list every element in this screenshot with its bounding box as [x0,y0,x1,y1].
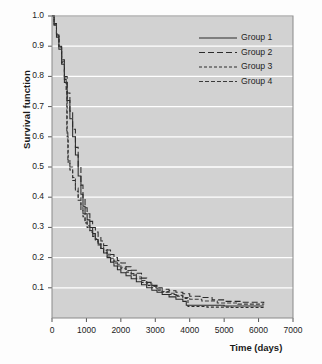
legend-label-4: Group 4 [241,76,272,86]
x-tick-label: 7000 [276,325,310,335]
y-tick-label: 0.7 [18,101,44,111]
y-tick-label: 0.5 [18,161,44,171]
y-tick-label: 0.9 [18,40,44,50]
x-tick-label: 1000 [69,325,103,335]
legend-label-3: Group 3 [241,61,272,71]
y-tick-label: 0.4 [18,191,44,201]
x-tick-label: 2000 [104,325,138,335]
y-tick-label: 0.6 [18,131,44,141]
legend-label-2: Group 2 [241,47,272,57]
survival-chart-figure: Survival function Time (days) 0.10.20.30… [0,0,322,364]
x-tick-label: 5000 [207,325,241,335]
chart-canvas [0,0,322,364]
legend-label-1: Group 1 [241,32,272,42]
y-tick-label: 0.2 [18,252,44,262]
x-tick-label: 4000 [173,325,207,335]
y-tick-label: 1.0 [18,10,44,20]
y-tick-label: 0.8 [18,70,44,80]
y-tick-label: 0.3 [18,221,44,231]
x-tick-label: 6000 [242,325,276,335]
y-tick-label: 0.1 [18,282,44,292]
x-tick-label: 0 [35,325,69,335]
x-tick-label: 3000 [138,325,172,335]
